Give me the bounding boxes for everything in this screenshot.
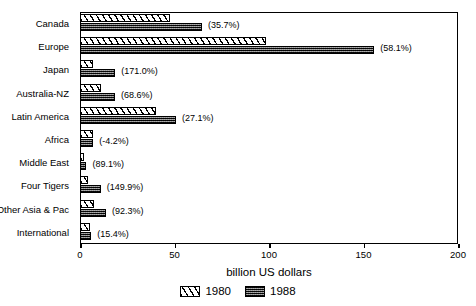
x-axis-ticks: 050100150200 <box>80 244 458 262</box>
x-tick-mark <box>458 244 460 248</box>
y-axis-label: Africa <box>0 128 74 151</box>
bar-group: (35.7%) <box>80 12 458 35</box>
bar-1988 <box>80 116 176 124</box>
growth-annotation: (149.9%) <box>107 182 144 192</box>
bar-chart: CanadaEuropeJapanAustralia-NZLatin Ameri… <box>0 0 476 306</box>
y-axis-label: Japan <box>0 58 74 81</box>
chart-legend: 19801988 <box>0 285 476 298</box>
bar-1980 <box>80 84 101 92</box>
y-axis-category-labels: CanadaEuropeJapanAustralia-NZLatin Ameri… <box>0 12 74 244</box>
x-axis-title: billion US dollars <box>80 265 458 279</box>
bar-1988 <box>80 209 106 217</box>
bar-1980 <box>80 176 88 184</box>
y-axis-label: Other Asia & Pac <box>0 198 74 221</box>
legend-swatch-1988 <box>245 286 265 297</box>
y-axis-label: Middle East <box>0 151 74 174</box>
bar-group: (149.9%) <box>80 174 458 197</box>
bar-1988 <box>80 69 115 77</box>
x-tick-label: 200 <box>450 249 466 260</box>
bar-1980 <box>80 37 266 45</box>
bar-1988 <box>80 162 86 170</box>
growth-annotation: (27.1%) <box>182 113 214 123</box>
bar-1988 <box>80 232 91 240</box>
bar-1988 <box>80 23 202 31</box>
bar-group: (27.1%) <box>80 105 458 128</box>
plot-bars-container: (35.7%)(58.1%)(171.0%)(68.6%)(27.1%)(-4.… <box>80 12 458 244</box>
y-axis-label: Australia-NZ <box>0 82 74 105</box>
bar-1980 <box>80 200 94 208</box>
growth-annotation: (58.1%) <box>380 43 412 53</box>
bar-group: (171.0%) <box>80 58 458 81</box>
x-tick-label: 0 <box>77 249 82 260</box>
y-axis-label: International <box>0 221 74 244</box>
legend-item: 1988 <box>245 285 296 298</box>
bar-group: (-4.2%) <box>80 128 458 151</box>
legend-label: 1980 <box>205 285 231 298</box>
x-tick-mark <box>364 244 366 248</box>
legend-swatch-1980 <box>180 286 200 297</box>
y-axis-label: Four Tigers <box>0 174 74 197</box>
y-axis-label: Canada <box>0 12 74 35</box>
bar-1980 <box>80 153 84 161</box>
bar-1980 <box>80 60 93 68</box>
bar-1988 <box>80 46 374 54</box>
growth-annotation: (35.7%) <box>208 20 240 30</box>
bar-1980 <box>80 107 156 115</box>
bar-group: (68.6%) <box>80 82 458 105</box>
x-tick-label: 150 <box>356 249 372 260</box>
growth-annotation: (-4.2%) <box>99 136 129 146</box>
bar-1988 <box>80 185 101 193</box>
bar-1980 <box>80 130 93 138</box>
bar-1988 <box>80 139 93 147</box>
y-axis-label: Europe <box>0 35 74 58</box>
y-axis-label: Latin America <box>0 105 74 128</box>
growth-annotation: (68.6%) <box>121 90 153 100</box>
legend-label: 1988 <box>270 285 296 298</box>
x-tick-label: 100 <box>261 249 277 260</box>
growth-annotation: (171.0%) <box>121 66 158 76</box>
bar-1980 <box>80 14 170 22</box>
bar-group: (58.1%) <box>80 35 458 58</box>
x-tick-mark <box>175 244 177 248</box>
growth-annotation: (89.1%) <box>92 159 124 169</box>
x-tick-label: 50 <box>169 249 180 260</box>
growth-annotation: (15.4%) <box>97 229 129 239</box>
bar-group: (92.3%) <box>80 198 458 221</box>
x-tick-mark <box>80 244 82 248</box>
bar-1988 <box>80 93 115 101</box>
bar-group: (15.4%) <box>80 221 458 244</box>
x-tick-mark <box>269 244 271 248</box>
legend-item: 1980 <box>180 285 231 298</box>
bar-group: (89.1%) <box>80 151 458 174</box>
bar-1980 <box>80 223 90 231</box>
growth-annotation: (92.3%) <box>112 206 144 216</box>
